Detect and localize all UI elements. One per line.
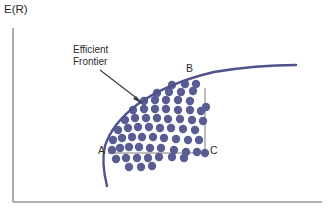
scatter-point <box>148 162 156 170</box>
scatter-point <box>191 126 199 134</box>
scatter-point <box>168 153 176 161</box>
efficient-frontier-annotation: EfficientFrontier <box>73 44 108 67</box>
scatter-point <box>156 124 164 132</box>
scatter-point <box>133 154 141 162</box>
annotation-arrow <box>100 70 143 104</box>
scatter-point <box>188 116 196 124</box>
scatter-point <box>118 134 126 142</box>
scatter-point <box>167 124 175 132</box>
scatter-point <box>124 124 132 132</box>
scatter-point <box>108 146 116 154</box>
scatter-point <box>177 88 185 96</box>
scatter-point <box>137 163 145 171</box>
scatter-point <box>125 163 133 171</box>
scatter-point <box>180 154 188 162</box>
scatter-point <box>128 133 136 141</box>
efficient-frontier-figure: E(R) EfficientFrontier A B C <box>0 0 328 210</box>
scatter-point <box>112 155 120 163</box>
scatter-point <box>144 154 152 162</box>
scatter-point <box>151 105 159 113</box>
scatter-point <box>199 117 207 125</box>
scatter-point <box>125 143 133 151</box>
scatter-point <box>174 106 182 114</box>
scatter-point <box>176 115 184 123</box>
point-label-c: C <box>210 145 218 156</box>
scatter-point <box>201 149 209 157</box>
scatter-point <box>193 148 201 156</box>
scatter-point <box>155 153 163 161</box>
scatter-point <box>186 106 194 114</box>
point-label-b: B <box>186 63 193 74</box>
scatter-point <box>186 97 194 105</box>
scatter-point <box>174 96 182 104</box>
scatter-point <box>162 105 170 113</box>
point-label-a: A <box>98 145 105 156</box>
scatter-point <box>179 125 187 133</box>
annotation-line-1: Efficient <box>73 44 108 55</box>
plot-canvas <box>0 0 328 210</box>
scatter-point <box>116 144 124 152</box>
scatter-point <box>134 123 142 131</box>
annotation-line-2: Frontier <box>73 56 107 67</box>
scatter-point <box>131 114 139 122</box>
scatter-point <box>164 115 172 123</box>
scatter-point <box>153 114 161 122</box>
scatter-point <box>122 154 130 162</box>
scatter-point <box>149 133 157 141</box>
scatter-point <box>140 105 148 113</box>
scatter-point <box>142 114 150 122</box>
scatter-point <box>157 144 165 152</box>
scatter-point <box>135 143 143 151</box>
scatter-point <box>172 135 180 143</box>
scatter-point <box>160 134 168 142</box>
y-axis-label: E(R) <box>4 4 28 15</box>
scatter-point <box>192 80 200 88</box>
scatter-point <box>145 123 153 131</box>
scatter-point <box>162 96 170 104</box>
annotation-arrow-line <box>100 70 139 100</box>
scatter-point <box>109 136 117 144</box>
scatter-point <box>195 136 203 144</box>
scatter-point <box>184 136 192 144</box>
scatter-point <box>146 144 154 152</box>
scatter-point <box>138 133 146 141</box>
portfolio-scatter-cloud <box>108 80 210 171</box>
scatter-point <box>202 103 210 111</box>
